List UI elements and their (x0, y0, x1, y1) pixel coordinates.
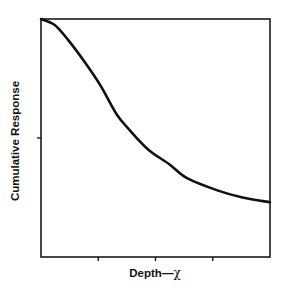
y-axis-label: Cumulative Response (9, 81, 21, 201)
x-axis-label: Depth—χ (129, 266, 180, 280)
cumulative-response-curve (41, 19, 270, 202)
chart-plot (0, 0, 285, 291)
x-axis-label-symbol: χ (173, 266, 180, 280)
x-axis-label-text: Depth— (129, 267, 173, 279)
plot-frame (41, 19, 270, 257)
